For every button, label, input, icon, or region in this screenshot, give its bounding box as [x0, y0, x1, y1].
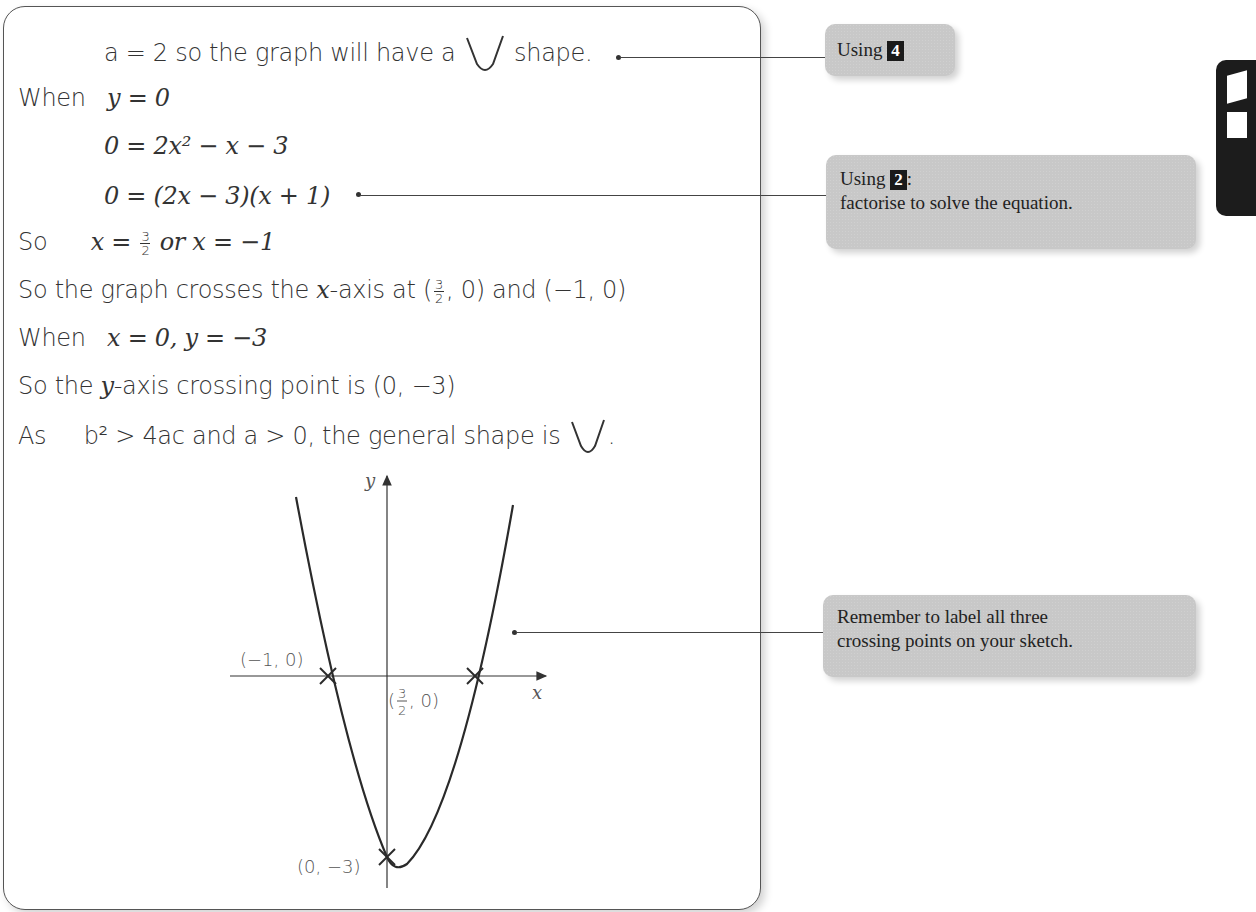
note-text: Using	[837, 39, 882, 60]
numerator: 3	[398, 686, 406, 701]
note-text: :	[907, 168, 912, 189]
connector-line	[516, 632, 826, 633]
point-label-neg1-0: (−1, 0)	[240, 649, 303, 670]
chapter-tab-glyph	[1227, 70, 1247, 103]
note-label-crossings: Remember to label all three crossing poi…	[823, 595, 1196, 677]
x-axis-label: x	[532, 682, 542, 703]
denominator: 2	[398, 703, 406, 718]
reference-badge: 2	[890, 170, 907, 190]
chapter-tab-glyph	[1227, 112, 1247, 138]
label-part: (	[388, 690, 395, 711]
note-text: Using	[840, 168, 885, 189]
point-label-0-neg3: (0, −3)	[297, 856, 360, 877]
label-part: , 0)	[409, 690, 439, 711]
note-text: Remember to label all three	[837, 605, 1182, 629]
note-using-2: Using 2: factorise to solve the equation…	[826, 155, 1196, 249]
y-axis-label: y	[364, 470, 376, 491]
reference-badge: 4	[887, 41, 904, 61]
point-label-3half-0: ( 3 2 , 0)	[388, 686, 439, 718]
note-text: factorise to solve the equation.	[840, 191, 1182, 215]
note-using-4: Using 4	[825, 24, 955, 76]
note-text: crossing points on your sketch.	[837, 629, 1182, 653]
parabola-sketch: y x (−1, 0) (0, −3) ( 3 2 , 0)	[0, 0, 760, 912]
